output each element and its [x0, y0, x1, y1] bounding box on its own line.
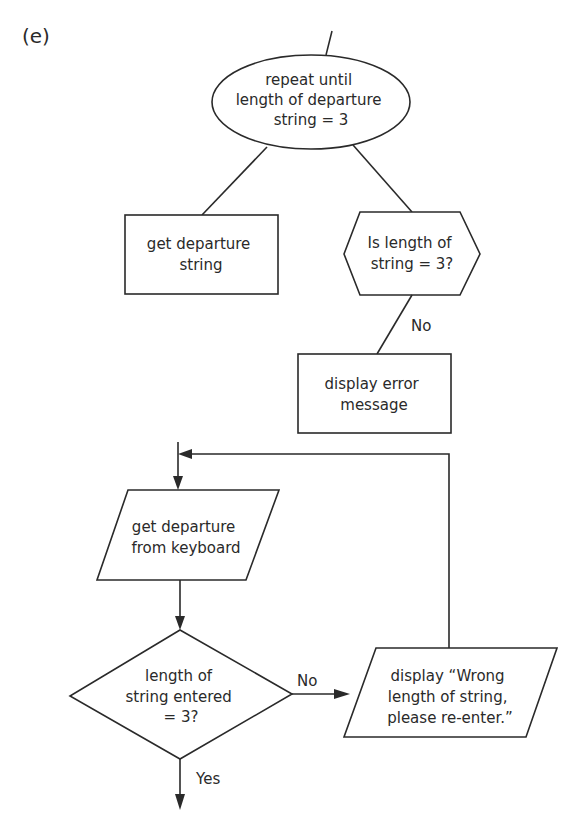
- arrowhead-to-output: [334, 689, 350, 699]
- part-label: (e): [22, 24, 50, 48]
- arrowhead-to-decision: [175, 616, 185, 630]
- arrowhead-to-input: [173, 476, 183, 490]
- error-output-text: display “Wrong length of string, please …: [387, 667, 513, 727]
- connector-check-to-error: [377, 295, 412, 354]
- connector-loop-to-check: [353, 145, 412, 212]
- check-length-hexagon: [344, 212, 480, 295]
- display-error-box: [298, 354, 451, 433]
- get-departure-string-box: [125, 215, 278, 294]
- yes-label: Yes: [195, 770, 220, 788]
- connector-loop-to-get-string: [202, 147, 267, 215]
- connector-top: [326, 31, 332, 55]
- no-label-flowchart: No: [297, 672, 317, 690]
- loop-back-arrowhead: [178, 449, 192, 459]
- flowchart-canvas: (e) repeat until length of departure str…: [0, 0, 588, 814]
- no-label-structure: No: [411, 317, 431, 335]
- arrowhead-yes: [175, 794, 185, 810]
